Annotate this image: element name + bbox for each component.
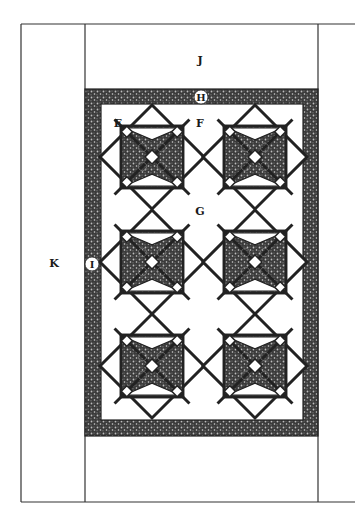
label-f: F: [196, 117, 204, 130]
label-i-badge: I: [85, 257, 99, 271]
quilt-diagram: J E F G K H I: [0, 0, 355, 516]
label-k: K: [49, 257, 59, 270]
label-h-badge: H: [194, 90, 208, 104]
label-h: H: [196, 92, 205, 103]
quilt-block: [203, 314, 307, 418]
quilt-block: [100, 314, 204, 418]
quilt-block: [203, 105, 307, 209]
label-g: G: [195, 205, 204, 218]
label-j: J: [196, 54, 202, 67]
quilt-block: [203, 210, 307, 314]
label-i: I: [90, 259, 95, 270]
quilt-block: [100, 210, 204, 314]
label-e: E: [114, 117, 122, 130]
